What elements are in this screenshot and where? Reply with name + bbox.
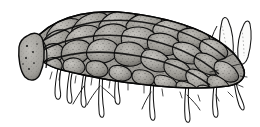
bagworm-illustration: Bagworm larva in case [0,0,260,127]
illustration-canvas: Bagworm larva in case [0,0,260,127]
